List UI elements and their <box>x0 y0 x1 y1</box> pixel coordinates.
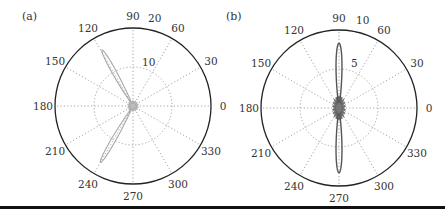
angle-tick-label: 150 <box>251 57 271 69</box>
angle-tick-label: 210 <box>45 145 65 157</box>
angle-tick-label: 120 <box>284 24 304 36</box>
angle-tick-label: 300 <box>168 178 188 190</box>
angle-tick-label: 90 <box>332 12 345 24</box>
angular-grid-spoke <box>94 38 133 106</box>
polar-plot-b: (b) 0306090120150180210240270300330 5 10 <box>206 0 428 200</box>
angle-tick-label: 240 <box>78 178 98 190</box>
angular-grid-spoke <box>339 69 407 108</box>
radial-label-max-a: 20 <box>148 12 161 24</box>
radial-label-max-b: 10 <box>356 14 369 26</box>
angle-tick-label: 270 <box>123 190 143 202</box>
angular-grid-spoke <box>339 108 378 176</box>
angle-tick-label: 210 <box>251 147 271 159</box>
angle-tick-label: 0 <box>426 102 433 114</box>
angle-tick-label: 300 <box>374 180 394 192</box>
angle-tick-label: 180 <box>33 100 53 112</box>
angle-tick-label: 180 <box>239 102 259 114</box>
angle-tick-label: 30 <box>410 57 423 69</box>
angle-tick-label: 60 <box>377 24 390 36</box>
angle-tick-label: 150 <box>45 55 65 67</box>
angular-grid-spoke <box>339 40 378 108</box>
radial-label-mid-a: 10 <box>142 56 155 68</box>
polar-plot-a: (a) 0306090120150180210240270300330 10 2… <box>0 0 222 200</box>
side-lobe-clutter <box>333 96 346 120</box>
angle-tick-label: 240 <box>284 180 304 192</box>
angular-grid-spoke <box>271 69 339 108</box>
angular-grid-spoke <box>271 108 339 147</box>
angular-grid-spoke <box>133 67 201 106</box>
angle-tick-label: 120 <box>78 22 98 34</box>
angular-grid-spoke <box>65 67 133 106</box>
side-lobe-clutter <box>128 101 139 112</box>
polar-chart-a: 0306090120150180210240270300330 10 20 <box>0 0 222 200</box>
angular-grid-spoke <box>300 108 339 176</box>
bottom-rule <box>0 206 445 209</box>
angle-tick-label: 270 <box>329 192 349 204</box>
angle-tick-label: 60 <box>171 22 184 34</box>
angle-tick-label: 90 <box>126 10 139 22</box>
angular-grid-spoke <box>94 106 133 174</box>
angular-grid-spoke <box>133 38 172 106</box>
radial-label-mid-b: 5 <box>351 57 358 69</box>
polar-chart-b: 0306090120150180210240270300330 5 10 <box>206 0 428 200</box>
angular-grid-spoke <box>300 40 339 108</box>
angular-grid-spoke <box>65 106 133 145</box>
main-lobe <box>102 50 133 106</box>
angle-tick-label: 330 <box>407 147 427 159</box>
angular-grid-spoke <box>133 106 172 174</box>
